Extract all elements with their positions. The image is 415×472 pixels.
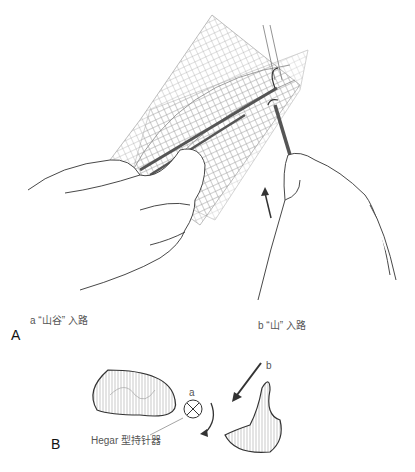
illustration [0, 0, 415, 472]
left-hand [28, 149, 205, 290]
panel-label-a: A [11, 327, 20, 343]
instrument-label: Hegar 型持针器 [91, 432, 161, 447]
marker-b: b [266, 360, 272, 371]
direction-arrow-b [232, 363, 261, 402]
tissue-right [225, 382, 281, 452]
direction-arrow [261, 187, 271, 218]
right-hand [258, 153, 396, 300]
needle-cross-marker [184, 400, 202, 418]
marker-a: a [189, 387, 195, 398]
label-mountain-approach: b “山” 入路 [258, 317, 306, 332]
tissue-left [93, 370, 176, 416]
panel-label-b: B [51, 436, 60, 452]
label-valley-approach: a “山谷” 入路 [30, 312, 88, 327]
